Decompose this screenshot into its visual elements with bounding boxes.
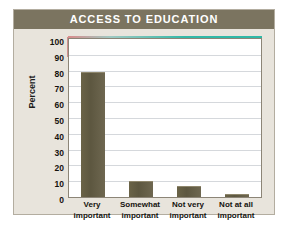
y-tick-0: 0 (38, 196, 64, 205)
y-tick-80: 80 (38, 69, 64, 78)
x-tick-label: Somewhatimportant (116, 200, 164, 221)
x-tick-label-line: important (212, 211, 260, 222)
y-tick-60: 60 (38, 101, 64, 110)
x-tick-label-line: important (116, 211, 164, 222)
y-tick-70: 70 (38, 85, 64, 94)
y-tick-10: 10 (38, 180, 64, 189)
gridline-90 (69, 55, 261, 56)
x-tick-label-line: Very (68, 200, 116, 211)
bar (177, 186, 201, 197)
x-tick-label-line: important (164, 211, 212, 222)
y-tick-20: 20 (38, 164, 64, 173)
x-axis-tick-labels: VeryimportantSomewhatimportantNot veryim… (68, 200, 262, 230)
y-tick-40: 40 (38, 132, 64, 141)
chart-screenshot: ACCESS TO EDUCATION Percent 100908070605… (0, 0, 288, 241)
chart-title: ACCESS TO EDUCATION (14, 13, 274, 25)
x-tick-label: Veryimportant (68, 200, 116, 221)
x-tick-label-line: Somewhat (116, 200, 164, 211)
y-tick-100: 100 (38, 38, 64, 47)
y-tick-50: 50 (38, 117, 64, 126)
chart-area: Percent 1009080706050403020100 Veryimpor… (14, 29, 274, 215)
x-tick-label-line: important (68, 211, 116, 222)
bar (129, 181, 153, 197)
plot-inner (69, 39, 261, 197)
chart-panel: ACCESS TO EDUCATION Percent 100908070605… (13, 9, 275, 215)
x-tick-label: Not veryimportant (164, 200, 212, 221)
y-tick-90: 90 (38, 53, 64, 62)
x-tick-label: Not at allimportant (212, 200, 260, 221)
chart-title-band: ACCESS TO EDUCATION (14, 10, 274, 29)
x-tick-label-line: Not very (164, 200, 212, 211)
bar (225, 194, 249, 197)
y-axis-tick-labels: 1009080706050403020100 (38, 41, 64, 195)
y-tick-30: 30 (38, 148, 64, 157)
bar (81, 72, 105, 197)
x-tick-label-line: Not at all (212, 200, 260, 211)
